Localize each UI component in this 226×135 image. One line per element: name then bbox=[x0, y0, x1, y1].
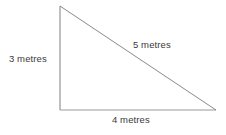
hypotenuse-label: 5 metres bbox=[133, 39, 171, 50]
triangle-diagram: 3 metres 5 metres 4 metres bbox=[0, 0, 226, 135]
hypotenuse-side-line bbox=[60, 6, 216, 110]
base-side-label: 4 metres bbox=[112, 114, 150, 125]
vertical-side-label: 3 metres bbox=[9, 53, 47, 64]
